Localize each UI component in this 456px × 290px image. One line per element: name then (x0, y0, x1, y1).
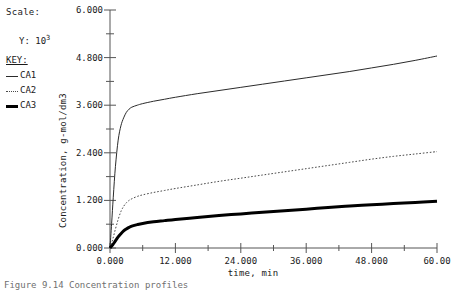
series-line-ca2 (110, 152, 437, 248)
y-tick-label: 2.400 (55, 148, 103, 158)
series-line-ca1 (110, 56, 437, 248)
x-tick-label: 24.000 (225, 256, 258, 266)
x-tick-label: 12.000 (159, 256, 192, 266)
x-tick-label: 0.000 (96, 256, 123, 266)
figure-caption: Figure 9.14 Concentration profiles (4, 280, 188, 290)
y-tick-label: 3.600 (55, 100, 103, 110)
x-tick-label: 36.000 (290, 256, 323, 266)
series-line-ca3 (110, 201, 437, 248)
y-tick-label: 0.000 (55, 243, 103, 253)
x-tick-label: 48.000 (355, 256, 388, 266)
y-tick-label: 6.000 (55, 5, 103, 15)
x-tick-label: 60.00 (423, 256, 450, 266)
y-tick-label: 1.200 (55, 195, 103, 205)
y-tick-label: 4.800 (55, 53, 103, 63)
